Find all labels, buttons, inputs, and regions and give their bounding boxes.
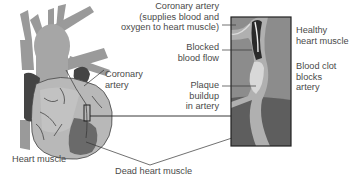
label-line: in artery (186, 101, 219, 112)
label-blood-clot: Blood clot blocks artery (296, 61, 336, 93)
label-coronary-artery: Coronary artery (105, 69, 143, 90)
label-line: Blood clot (296, 61, 336, 72)
label-line: blocks (296, 72, 336, 83)
label-line: Blocked (178, 42, 219, 53)
label-blocked-blood-flow: Blocked blood flow (178, 42, 219, 63)
label-line: oxygen to heart muscle) (121, 22, 219, 33)
artery-inset (231, 17, 291, 146)
label-line: Plaque (186, 80, 219, 91)
label-heart-muscle: Heart muscle (12, 154, 66, 165)
label-line: artery (105, 80, 143, 91)
label-healthy-heart-muscle: Healthy heart muscle (296, 25, 349, 46)
label-line: Coronary artery (121, 1, 219, 12)
label-line: (supplies blood and (121, 12, 219, 23)
label-line: buildup (186, 91, 219, 102)
label-line: artery (296, 82, 336, 93)
label-line: heart muscle (296, 36, 349, 47)
label-coronary-artery-inset: Coronary artery (supplies blood and oxyg… (121, 1, 219, 33)
label-dead-heart-muscle: Dead heart muscle (115, 166, 192, 177)
heart-attack-diagram: Coronary artery (supplies blood and oxyg… (0, 0, 353, 180)
label-line: Coronary (105, 69, 143, 80)
label-line: blood flow (178, 53, 219, 64)
label-plaque-buildup: Plaque buildup in artery (186, 80, 219, 112)
label-line: Healthy (296, 25, 349, 36)
